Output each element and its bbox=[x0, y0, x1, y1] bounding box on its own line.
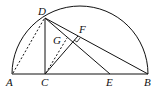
label-F: F bbox=[78, 23, 86, 35]
semicircle-arc bbox=[12, 6, 148, 74]
label-G: G bbox=[53, 34, 61, 46]
segment-DE bbox=[45, 18, 110, 74]
segment-DB bbox=[45, 18, 148, 74]
label-D: D bbox=[37, 5, 46, 17]
geometry-diagram: D F G A C E B bbox=[0, 0, 154, 102]
label-A: A bbox=[5, 76, 13, 88]
label-C: C bbox=[41, 76, 49, 88]
label-B: B bbox=[144, 76, 151, 88]
segment-CF bbox=[45, 36, 78, 74]
label-E: E bbox=[105, 76, 113, 88]
